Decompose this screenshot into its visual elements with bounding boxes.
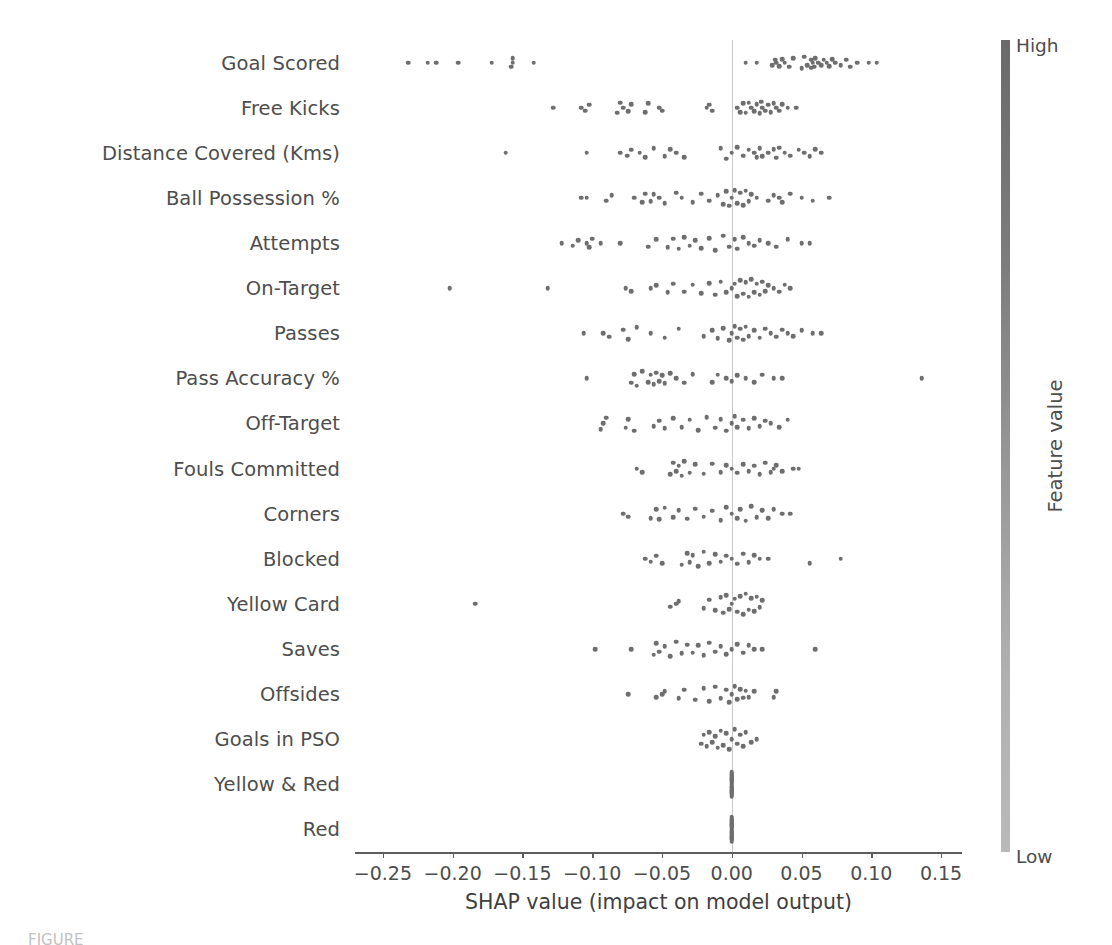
scatter-point — [718, 559, 723, 564]
scatter-point — [676, 696, 681, 701]
scatter-point — [746, 241, 751, 246]
scatter-point — [688, 560, 693, 565]
scatter-point — [760, 508, 765, 513]
scatter-point — [651, 424, 656, 429]
scatter-point — [782, 282, 787, 287]
scatter-point — [771, 147, 776, 152]
scatter-point — [782, 150, 787, 155]
scatter-point — [777, 289, 782, 294]
scatter-point — [780, 376, 785, 381]
scatter-point — [716, 193, 721, 198]
y-axis-label-passes: Passes — [274, 322, 340, 345]
scatter-point — [674, 639, 679, 644]
scatter-point — [844, 57, 849, 62]
scatter-point — [729, 286, 734, 291]
scatter-point — [406, 60, 411, 65]
scatter-point — [796, 466, 801, 471]
scatter-point — [741, 695, 746, 700]
scatter-point — [688, 418, 693, 423]
scatter-point — [757, 472, 762, 477]
scatter-point — [629, 647, 634, 652]
scatter-point — [760, 647, 765, 652]
scatter-point — [774, 689, 779, 694]
scatter-point — [743, 280, 748, 285]
scatter-point — [509, 65, 514, 70]
scatter-point — [704, 415, 709, 420]
scatter-point — [774, 335, 779, 340]
scatter-point — [651, 382, 656, 387]
scatter-point — [743, 188, 748, 193]
scatter-point — [621, 105, 626, 110]
feature-value-colorbar — [1001, 40, 1010, 852]
y-axis-label-saves: Saves — [281, 638, 340, 661]
scatter-point — [685, 642, 690, 647]
scatter-point — [696, 428, 701, 433]
scatter-point — [810, 198, 815, 203]
scatter-point — [662, 644, 667, 649]
scatter-point — [777, 109, 782, 114]
scatter-point — [721, 326, 726, 331]
scatter-point — [741, 101, 746, 106]
scatter-point — [671, 515, 676, 520]
scatter-point — [746, 199, 751, 204]
scatter-point — [657, 196, 662, 201]
scatter-point — [755, 281, 760, 286]
scatter-point — [729, 196, 734, 201]
scatter-point — [707, 236, 712, 241]
scatter-point — [808, 154, 813, 159]
scatter-point — [738, 594, 743, 599]
scatter-point — [674, 469, 679, 474]
scatter-point — [665, 290, 670, 295]
scatter-point — [746, 560, 751, 565]
scatter-point — [570, 244, 575, 249]
scatter-point — [626, 337, 631, 342]
scatter-point — [696, 564, 701, 569]
scatter-point — [752, 647, 757, 652]
scatter-point — [763, 460, 768, 465]
scatter-point — [774, 244, 779, 249]
scatter-point — [559, 241, 564, 246]
scatter-point — [551, 105, 556, 110]
scatter-point — [738, 507, 743, 512]
colorbar-low-label: Low — [1016, 846, 1052, 867]
scatter-point — [735, 145, 740, 150]
scatter-point — [671, 236, 676, 241]
scatter-point — [763, 418, 768, 423]
scatter-point — [788, 286, 793, 291]
scatter-point — [777, 64, 782, 69]
scatter-point — [623, 425, 628, 430]
scatter-point — [724, 428, 729, 433]
scatter-point — [649, 286, 654, 291]
scatter-point — [682, 289, 687, 294]
scatter-point — [584, 376, 589, 381]
scatter-point — [643, 556, 648, 561]
scatter-point — [601, 421, 606, 426]
scatter-point — [771, 376, 776, 381]
scatter-point — [651, 192, 656, 197]
scatter-point — [766, 283, 771, 288]
scatter-point — [794, 105, 799, 110]
scatter-point — [729, 379, 734, 384]
scatter-point — [738, 191, 743, 196]
scatter-point — [752, 328, 757, 333]
scatter-point — [741, 337, 746, 342]
scatter-point — [819, 331, 824, 336]
scatter-point — [757, 424, 762, 429]
scatter-point — [808, 241, 813, 246]
x-tick-label: −0.05 — [633, 862, 691, 884]
scatter-point — [780, 200, 785, 205]
scatter-point — [808, 561, 813, 566]
scatter-point — [746, 100, 751, 105]
x-tick — [662, 852, 663, 858]
scatter-point — [752, 689, 757, 694]
y-axis-label-corners: Corners — [264, 502, 340, 525]
scatter-point — [738, 733, 743, 738]
x-tick — [802, 852, 803, 858]
scatter-point — [743, 519, 748, 524]
scatter-point — [732, 727, 737, 732]
scatter-point — [510, 60, 515, 65]
scatter-point — [662, 426, 667, 431]
scatter-point — [679, 196, 684, 201]
scatter-point — [707, 640, 712, 645]
x-tick — [871, 852, 872, 858]
